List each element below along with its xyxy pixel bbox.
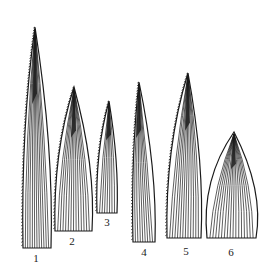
leaf-label-6: 6: [228, 246, 234, 258]
leaf-label-1: 1: [33, 252, 39, 264]
leaf-label-2: 2: [69, 235, 75, 247]
leaf-label-3: 3: [104, 216, 110, 228]
leaf-label-4: 4: [141, 246, 147, 258]
leaf-illustration-figure: 1 2 3 4 5 6: [0, 0, 273, 275]
leaf-label-5: 5: [183, 245, 189, 257]
leaf-1: [21, 27, 51, 248]
leaf-3: [95, 101, 117, 213]
leaf-4: [131, 82, 155, 242]
leaf-5: [165, 73, 201, 238]
leaf-2: [53, 87, 92, 231]
leaves-group: [21, 27, 258, 248]
leaf-6: [206, 132, 258, 238]
